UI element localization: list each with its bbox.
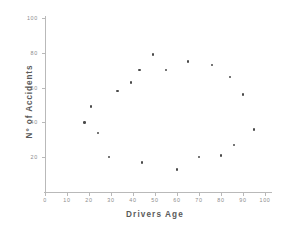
x-tick — [265, 193, 266, 196]
x-tick — [243, 193, 244, 196]
x-tick-label: 10 — [56, 197, 78, 203]
x-tick-label: 70 — [188, 197, 210, 203]
scatter-chart: 20406080100 0102030405060708090100 Drive… — [0, 0, 293, 232]
x-tick — [155, 193, 156, 196]
data-point — [83, 121, 86, 124]
x-tick — [111, 193, 112, 196]
x-tick-label: 90 — [232, 197, 254, 203]
data-point — [176, 168, 179, 171]
x-tick — [67, 193, 68, 196]
data-point — [253, 128, 256, 131]
x-tick — [89, 193, 90, 196]
data-point — [138, 69, 141, 72]
data-point — [165, 69, 168, 72]
x-tick — [221, 193, 222, 196]
x-tick — [133, 193, 134, 196]
x-tick — [199, 193, 200, 196]
x-tick-label: 20 — [78, 197, 100, 203]
y-axis-title: N° of Accidents — [25, 22, 34, 182]
data-point — [116, 90, 119, 93]
data-point — [211, 64, 214, 67]
x-tick-label: 40 — [122, 197, 144, 203]
x-tick — [45, 193, 46, 196]
data-point — [187, 60, 190, 63]
data-point — [90, 105, 93, 108]
data-point — [242, 93, 245, 96]
data-point — [108, 156, 111, 159]
x-tick-label: 60 — [166, 197, 188, 203]
data-point — [130, 81, 133, 84]
x-tick — [177, 193, 178, 196]
x-axis-line — [44, 192, 272, 193]
x-tick-label: 50 — [144, 197, 166, 203]
data-point — [229, 76, 232, 79]
y-tick-label: 100 — [16, 15, 38, 21]
data-point — [198, 156, 201, 159]
data-point — [152, 53, 155, 56]
x-tick-label: 0 — [34, 197, 56, 203]
x-tick-label: 100 — [254, 197, 276, 203]
x-tick-label: 30 — [100, 197, 122, 203]
data-point — [220, 154, 223, 157]
data-point — [141, 161, 144, 164]
x-tick-label: 80 — [210, 197, 232, 203]
x-axis-title: Drivers Age — [45, 210, 265, 219]
plot-area — [45, 18, 265, 192]
data-point — [233, 144, 236, 147]
data-point — [97, 132, 100, 135]
